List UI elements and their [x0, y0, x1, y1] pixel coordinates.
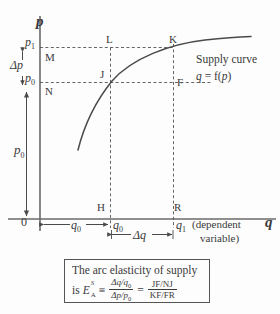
- dependent-variable-note-line2: variable): [200, 232, 239, 245]
- price-axis-label: p: [36, 14, 44, 29]
- equation-close: ): [227, 70, 231, 82]
- formula-is-word: is: [72, 284, 80, 296]
- ratio1-numerator: Δq/q0: [109, 277, 133, 289]
- point-label-J: J: [100, 69, 104, 80]
- elasticity-ratio-segments: JF/NJ KF/FR: [148, 279, 177, 301]
- q0-span-subscript: 0: [77, 225, 81, 234]
- q0-span-label: q0: [71, 219, 81, 234]
- arc-elasticity-formula-box: The arc elasticity of supply is E S A ≡ …: [64, 259, 210, 303]
- p0-tick-label: p0: [25, 72, 35, 87]
- p1-subscript: 1: [31, 42, 35, 51]
- elasticity-symbol-subscript: A: [91, 291, 96, 299]
- ratio1-num-text: Δq/q: [111, 277, 128, 287]
- dependent-variable-note-line1: (dependent: [192, 218, 241, 231]
- point-label-K: K: [169, 34, 177, 45]
- equation-fn: f(: [214, 70, 222, 82]
- supply-curve-equation: q = f(p): [196, 71, 231, 83]
- formula-line-2: is E S A ≡ Δq/q0 Δp/p0 = JF/NJ KF/FR: [72, 277, 203, 303]
- figure-container: p q 0 p1 p0 Δp p0 M N L K J F H R q0 q0 …: [0, 0, 280, 314]
- ratio2-denominator: KF/FR: [148, 289, 177, 300]
- supply-curve-label: Supply curve: [196, 54, 257, 66]
- q1-subscript: 1: [182, 225, 186, 234]
- elasticity-symbol-superscript: S: [91, 279, 95, 287]
- equivalence-sign: ≡: [99, 284, 106, 296]
- ratio1-denominator: Δp/p0: [109, 289, 133, 302]
- ratio2-numerator: JF/NJ: [150, 279, 175, 289]
- elasticity-symbol-base: E: [83, 284, 90, 296]
- point-label-L: L: [106, 34, 113, 45]
- p1-tick-label: p1: [25, 36, 35, 51]
- ratio1-den-text: Δp/p: [111, 290, 128, 300]
- p0-subscript: 0: [31, 78, 35, 87]
- formula-line-1: The arc elasticity of supply: [72, 264, 203, 276]
- origin-label: 0: [21, 216, 27, 228]
- ratio1-num-sub: 0: [128, 282, 131, 289]
- point-label-N: N: [45, 86, 53, 97]
- elasticity-ratio-definition: Δq/q0 Δp/p0: [109, 277, 133, 303]
- p0-span-label: p0: [14, 143, 25, 160]
- point-label-M: M: [45, 52, 55, 63]
- ratio1-den-sub: 0: [128, 295, 131, 302]
- delta-q-label: Δq: [133, 229, 146, 241]
- quantity-axis-label: q: [265, 215, 273, 230]
- point-label-R: R: [174, 202, 181, 213]
- point-label-H: H: [97, 202, 105, 213]
- q0-point-label: q0: [113, 219, 123, 234]
- delta-p-label: Δp: [10, 59, 23, 71]
- q1-label: q1: [176, 219, 186, 234]
- q0-point-subscript: 0: [119, 225, 123, 234]
- point-label-F: F: [177, 77, 183, 88]
- p0-span-subscript: 0: [21, 151, 25, 160]
- elasticity-symbol: E S A: [83, 284, 90, 296]
- equals-sign: =: [137, 284, 144, 296]
- equation-equals: =: [202, 70, 214, 82]
